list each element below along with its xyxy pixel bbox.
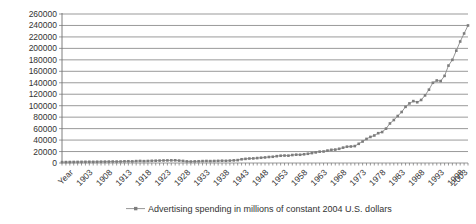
data-series — [61, 24, 470, 163]
data-point-marker — [287, 154, 290, 157]
data-point-marker — [467, 24, 470, 27]
data-point-marker — [92, 161, 95, 164]
x-tick-label: 1948 — [250, 167, 271, 188]
x-tick-label: 1933 — [191, 167, 212, 188]
data-point-marker — [260, 156, 263, 159]
data-point-marker — [342, 146, 345, 149]
data-point-marker — [275, 155, 278, 158]
x-tick-label: 1903 — [74, 167, 95, 188]
x-tick-label: 1963 — [308, 167, 329, 188]
chart-canvas: 0200004000060000800001000001200001400001… — [0, 0, 476, 224]
data-point-marker — [76, 161, 79, 164]
x-tick-label: 1938 — [211, 167, 232, 188]
data-point-marker — [408, 102, 411, 105]
x-tick-label: Year — [56, 167, 75, 186]
y-tick-label: 40000 — [33, 135, 57, 145]
x-tick-label: 1928 — [172, 167, 193, 188]
x-tick-label: 1983 — [386, 167, 407, 188]
data-point-marker — [217, 160, 220, 163]
data-point-marker — [178, 159, 181, 162]
data-point-marker — [353, 145, 356, 148]
data-point-marker — [338, 147, 341, 150]
x-tick-label: 1968 — [328, 167, 349, 188]
series-polyline — [62, 25, 468, 162]
data-point-marker — [96, 160, 99, 163]
data-point-marker — [377, 132, 380, 135]
data-point-marker — [295, 153, 298, 156]
data-point-marker — [244, 158, 247, 161]
x-tick-label: 1988 — [406, 167, 427, 188]
data-point-marker — [123, 160, 126, 163]
data-point-marker — [404, 106, 407, 109]
data-point-marker — [463, 32, 466, 35]
data-point-marker — [272, 155, 275, 158]
data-point-marker — [197, 160, 200, 163]
data-point-marker — [381, 131, 384, 134]
advertising-spending-line-chart: 0200004000060000800001000001200001400001… — [0, 0, 476, 224]
data-point-marker — [443, 75, 446, 78]
data-point-marker — [108, 160, 111, 163]
data-point-marker — [115, 160, 118, 163]
data-point-marker — [396, 115, 399, 118]
legend-marker-swatch — [134, 207, 137, 210]
data-point-marker — [318, 150, 321, 153]
data-point-marker — [162, 159, 165, 162]
data-point-marker — [131, 160, 134, 163]
y-tick-label: 240000 — [29, 20, 58, 30]
gridlines — [59, 14, 468, 163]
x-tick-label: 1958 — [289, 167, 310, 188]
y-tick-label: 160000 — [29, 66, 58, 76]
data-point-marker — [100, 160, 103, 163]
data-point-marker — [393, 119, 396, 122]
data-point-marker — [330, 149, 333, 152]
data-point-marker — [174, 159, 177, 162]
data-point-marker — [166, 159, 169, 162]
x-tick-label: 1918 — [133, 167, 154, 188]
data-point-marker — [248, 157, 251, 160]
data-point-marker — [369, 136, 372, 139]
data-point-marker — [459, 40, 462, 43]
y-tick-label: 60000 — [33, 124, 57, 134]
data-point-marker — [135, 160, 138, 163]
data-point-marker — [361, 140, 364, 143]
data-point-marker — [150, 160, 153, 163]
data-point-marker — [201, 160, 204, 163]
y-tick-label: 80000 — [33, 112, 57, 122]
x-tick-label: 1943 — [230, 167, 251, 188]
data-point-marker — [424, 94, 427, 97]
data-point-marker — [209, 160, 212, 163]
data-point-marker — [252, 157, 255, 160]
data-point-marker — [291, 154, 294, 157]
x-tick-label: 1973 — [347, 167, 368, 188]
data-point-marker — [236, 159, 239, 162]
data-point-marker — [143, 160, 146, 163]
data-point-marker — [322, 150, 325, 153]
data-point-marker — [72, 161, 75, 164]
data-point-marker — [447, 64, 450, 67]
data-point-marker — [65, 161, 68, 164]
data-point-marker — [119, 160, 122, 163]
data-point-marker — [69, 161, 72, 164]
data-point-marker — [385, 127, 388, 130]
data-point-marker — [451, 59, 454, 62]
x-tick-label: 1978 — [367, 167, 388, 188]
x-tick-label: 1913 — [113, 167, 134, 188]
data-point-marker — [373, 134, 376, 137]
y-tick-label: 120000 — [29, 89, 58, 99]
y-tick-label: 0 — [52, 158, 57, 168]
data-point-marker — [213, 160, 216, 163]
data-point-marker — [264, 156, 267, 159]
data-point-marker — [346, 145, 349, 148]
data-point-marker — [88, 161, 91, 164]
y-tick-label: 220000 — [29, 32, 58, 42]
data-point-marker — [455, 49, 458, 52]
data-point-marker — [104, 160, 107, 163]
x-tick-label: 1923 — [152, 167, 173, 188]
y-tick-label: 260000 — [29, 9, 58, 19]
data-point-marker — [428, 88, 431, 91]
x-axis-tick-labels: Year190319081913191819231928193319381943… — [56, 167, 470, 188]
data-point-marker — [158, 159, 161, 162]
data-point-marker — [307, 152, 310, 155]
data-point-marker — [111, 160, 114, 163]
data-point-marker — [186, 160, 189, 163]
